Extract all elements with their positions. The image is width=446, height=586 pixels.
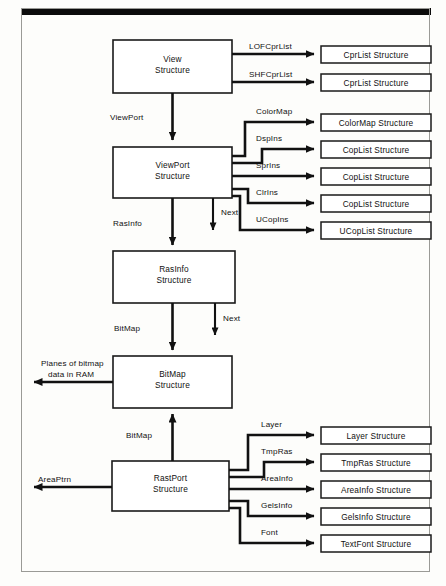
box-gelsinfo-label: GelsInfo Structure [341, 512, 411, 522]
label-planes-line-2: data in RAM [48, 370, 94, 379]
label-bitmap-rastport: BitMap [126, 431, 152, 440]
label-areainfo: AreaInfo [261, 474, 293, 483]
box-tmpras-label: TmpRas Structure [341, 458, 411, 468]
box-coplist-1-label: CopList Structure [343, 145, 410, 155]
diagram-canvas: View Structure ViewPort Structure RasInf… [0, 0, 446, 586]
label-areaptrn: AreaPtrn [38, 475, 71, 484]
label-viewport: ViewPort [110, 113, 144, 122]
label-gelsinfo: GelsInfo [261, 501, 293, 510]
box-rasinfo-structure-label-2: Structure [156, 275, 191, 285]
label-bitmap-rasinfo: BitMap [114, 324, 140, 333]
box-layer-label: Layer Structure [347, 431, 406, 441]
box-coplist-2-label: CopList Structure [343, 172, 410, 182]
label-sprins: SprIns [256, 161, 280, 170]
label-ucopins: UCopIns [256, 215, 289, 224]
box-ucoplist-label: UCopList Structure [340, 226, 413, 236]
label-layer: Layer [261, 420, 282, 429]
box-rasinfo-structure-label-1: RasInfo [159, 264, 189, 274]
box-bitmap-structure-label-2: Structure [155, 380, 190, 390]
box-areainfo-label: AreaInfo Structure [341, 485, 411, 495]
label-planes-line-1: Planes of bitmap [41, 359, 104, 368]
box-coplist-3-label: CopList Structure [343, 199, 410, 209]
box-viewport-structure-label-1: ViewPort [155, 160, 190, 170]
box-cprlist-2-label: CprList Structure [344, 78, 409, 88]
edge-ucopins [232, 196, 314, 230]
label-next-rasinfo: Next [223, 314, 241, 323]
label-shfcprlist: SHFCprList [249, 70, 293, 79]
edge-font [229, 508, 314, 543]
label-clrins: ClrIns [256, 188, 278, 197]
diagram-page: View Structure ViewPort Structure RasInf… [0, 0, 446, 586]
box-view-structure-label-2: Structure [155, 65, 190, 75]
box-view-structure-label-1: View [163, 54, 182, 64]
label-next-viewport: Next [221, 208, 239, 217]
box-rastport-structure-label-2: Structure [153, 484, 188, 494]
label-colormap: ColorMap [256, 107, 293, 116]
label-rasinfo: RasInfo [113, 219, 142, 228]
label-font: Font [261, 528, 278, 537]
box-textfont-label: TextFont Structure [341, 539, 412, 549]
box-colormap-label: ColorMap Structure [339, 118, 414, 128]
box-rastport-structure-label-1: RastPort [154, 473, 188, 483]
box-viewport-structure-label-2: Structure [155, 171, 190, 181]
box-bitmap-structure-label-1: BitMap [159, 369, 186, 379]
label-tmpras: TmpRas [261, 447, 292, 456]
label-lofcprlist: LOFCprList [249, 42, 292, 51]
box-cprlist-1-label: CprList Structure [344, 50, 409, 60]
label-dspins: DspIns [256, 134, 282, 143]
